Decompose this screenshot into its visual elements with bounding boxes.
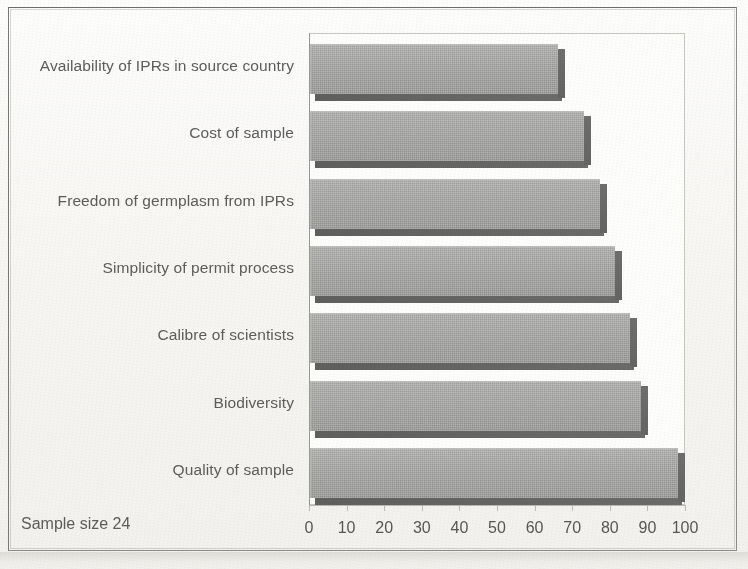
x-tick-mark: [647, 506, 648, 511]
x-tick-label-70: 70: [563, 519, 581, 537]
scan-bottom-edge: [0, 552, 748, 569]
x-tick-mark: [497, 506, 498, 511]
x-tick-label-0: 0: [305, 519, 314, 537]
sample-size-note: Sample size 24: [21, 515, 130, 533]
x-tick-label-30: 30: [413, 519, 431, 537]
x-tick-mark: [459, 506, 460, 511]
x-tick-mark: [685, 506, 686, 511]
x-tick-label-60: 60: [526, 519, 544, 537]
x-tick-mark: [384, 506, 385, 511]
x-tick-label-10: 10: [338, 519, 356, 537]
x-tick-mark: [535, 506, 536, 511]
x-tick-label-20: 20: [375, 519, 393, 537]
x-tick-mark: [309, 506, 310, 511]
x-tick-label-90: 90: [638, 519, 656, 537]
x-axis-ticks: 0102030405060708090100: [0, 0, 748, 569]
x-tick-mark: [347, 506, 348, 511]
x-tick-mark: [572, 506, 573, 511]
x-tick-label-80: 80: [601, 519, 619, 537]
x-tick-mark: [610, 506, 611, 511]
x-tick-label-50: 50: [488, 519, 506, 537]
x-tick-label-100: 100: [672, 519, 699, 537]
x-tick-mark: [422, 506, 423, 511]
x-tick-label-40: 40: [450, 519, 468, 537]
chart-page: Availability of IPRs in source country C…: [0, 0, 748, 569]
